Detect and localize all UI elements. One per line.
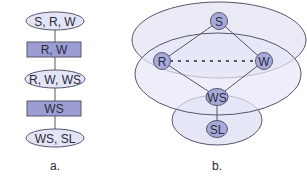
separator-label: WS <box>44 102 63 116</box>
junction-tree-diagram: S, R, W R, W R, W, WS WS WS, SL a. <box>25 12 85 173</box>
node-s: S <box>211 13 228 30</box>
clique-node-wssl: WS, SL <box>26 129 84 147</box>
node-r: R <box>154 53 171 70</box>
clique-label: R, W, WS <box>29 73 81 87</box>
caption-b: b. <box>212 159 222 173</box>
caption-a: a. <box>50 159 60 173</box>
separator-node-rw: R, W <box>27 42 81 57</box>
clique-regions-diagram: S R W WS SL b. <box>132 2 306 173</box>
clique-label: WS, SL <box>35 132 76 146</box>
node-label: R <box>158 55 167 69</box>
node-label: S <box>215 15 223 29</box>
node-label: SL <box>210 123 225 137</box>
separator-label: R, W <box>41 43 68 57</box>
node-sl: SL <box>207 121 228 138</box>
node-w: W <box>256 53 273 70</box>
figure-canvas: S, R, W R, W R, W, WS WS WS, SL a. <box>0 0 307 181</box>
clique-node-srw: S, R, W <box>26 12 84 30</box>
separator-node-ws: WS <box>27 101 81 116</box>
clique-label: S, R, W <box>34 15 76 29</box>
clique-node-rwws: R, W, WS <box>25 70 85 88</box>
node-label: WS <box>207 91 226 105</box>
node-label: W <box>258 55 270 69</box>
node-ws: WS <box>206 89 228 106</box>
